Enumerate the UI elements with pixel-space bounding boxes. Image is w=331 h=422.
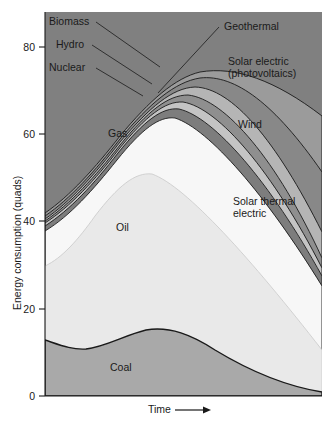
label-solar-thermal-line1: Solar thermal — [233, 196, 295, 208]
label-hydro: Hydro — [56, 39, 84, 51]
label-solar-thermal-line2: electric — [233, 208, 266, 220]
label-coal: Coal — [110, 362, 132, 374]
y-tick-label-60: 60 — [14, 128, 35, 140]
label-nuclear: Nuclear — [49, 62, 85, 74]
y-tick-label-0: 0 — [14, 390, 35, 402]
label-gas: Gas — [108, 128, 127, 140]
label-wind: Wind — [238, 119, 262, 131]
label-geothermal: Geothermal — [224, 21, 279, 33]
label-biomass: Biomass — [49, 16, 89, 28]
time-arrow-icon — [175, 407, 211, 414]
y-tick-label-80: 80 — [14, 41, 35, 53]
label-oil: Oil — [116, 222, 129, 234]
chart-figure: 80 60 40 20 0 Energy consumption (quads)… — [0, 0, 331, 422]
y-axis-title: Energy consumption (quads) — [11, 176, 23, 310]
label-solar-electric-line1: Solar electric — [228, 56, 289, 68]
x-axis-title: Time — [148, 404, 171, 416]
label-solar-electric-line2: (photovoltaics) — [228, 68, 296, 80]
